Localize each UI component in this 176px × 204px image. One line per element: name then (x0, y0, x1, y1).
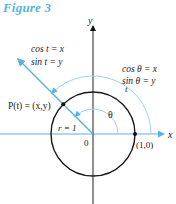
radius-label: r = 1 (58, 123, 77, 133)
unit-circle-diagram: y x 0 (1,0) P(t) = (x,y) r = 1 θ t cos t… (0, 0, 176, 204)
point-one-zero (133, 132, 137, 136)
right-sin-equation: sin θ = y (122, 76, 156, 86)
origin-label: 0 (84, 138, 89, 148)
right-cos-equation: cos θ = x (122, 64, 158, 74)
x-axis-label: x (167, 129, 173, 140)
y-axis-label: y (87, 15, 93, 26)
point-one-zero-label: (1,0) (136, 140, 153, 150)
left-cos-equation: cos t = x (31, 44, 65, 54)
left-sin-equation: sin t = y (31, 57, 63, 67)
point-p-label: P(t) = (x,y) (8, 101, 51, 112)
theta-label: θ (108, 109, 113, 120)
terminal-ray (18, 59, 93, 134)
point-p (61, 102, 65, 106)
